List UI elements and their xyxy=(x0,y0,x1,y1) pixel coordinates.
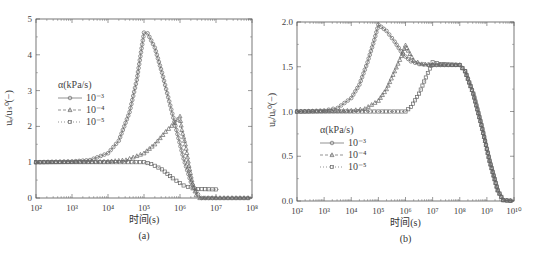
x-tick-label: 10³ xyxy=(66,203,78,213)
triangle-marker xyxy=(391,73,395,77)
square-marker xyxy=(424,76,427,79)
x-tick-label: 10⁵ xyxy=(138,203,150,213)
panel-caption: (a) xyxy=(138,230,149,242)
square-marker xyxy=(428,67,431,70)
x-tick-label: 10⁴ xyxy=(102,203,114,213)
x-tick-label: 10⁸ xyxy=(454,206,466,216)
x-tick-label: 10³ xyxy=(318,206,330,216)
square-marker xyxy=(415,95,418,98)
x-axis-label: 时间(s) xyxy=(390,216,421,229)
y-tick-label: 0.5 xyxy=(282,151,294,161)
x-tick-label: 10² xyxy=(291,206,303,216)
y-tick-label: 5 xyxy=(28,14,33,24)
x-tick-label: 10⁷ xyxy=(427,206,439,216)
y-tick-label: 1 xyxy=(28,157,33,167)
y-tick-label: 0 xyxy=(28,193,33,203)
x-tick-label: 10⁴ xyxy=(345,206,357,216)
figure: 10²10³10⁴10⁵10⁶10⁷10⁸012345α(kPa/s)10⁻³1… xyxy=(0,0,534,254)
series-line-1 xyxy=(36,116,252,198)
legend-entry: 10⁻³ xyxy=(348,137,366,148)
x-tick-label: 10¹⁰ xyxy=(506,206,522,216)
y-tick-label: 1.0 xyxy=(282,107,294,117)
x-tick-label: 10⁵ xyxy=(372,206,384,216)
y-axis-label: uₑ/uₛ⁰(−) xyxy=(3,90,15,126)
panel-a: 10²10³10⁴10⁵10⁶10⁷10⁸012345α(kPa/s)10⁻³1… xyxy=(3,14,258,242)
legend-entry: 10⁻³ xyxy=(86,92,104,103)
y-tick-label: 4 xyxy=(28,50,33,60)
y-tick-label: 3 xyxy=(28,86,33,96)
y-axis-label: uₑ/uₑ⁰(−) xyxy=(266,93,278,127)
legend: α(kPa/s)10⁻³10⁻⁴10⁻⁵ xyxy=(58,79,105,127)
square-marker xyxy=(182,184,185,187)
square-marker xyxy=(153,164,156,167)
plot-frame xyxy=(36,19,252,198)
square-marker xyxy=(411,102,414,105)
x-tick-label: 10⁸ xyxy=(246,203,258,213)
x-tick-label: 10⁷ xyxy=(210,203,222,213)
legend-title: α(kPa/s) xyxy=(58,79,92,91)
x-tick-label: 10⁹ xyxy=(481,206,493,216)
legend-title: α(kPa/s) xyxy=(320,124,354,136)
triangle-marker xyxy=(184,146,188,150)
legend: α(kPa/s)10⁻³10⁻⁴10⁻⁵ xyxy=(320,124,367,172)
y-tick-label: 0.0 xyxy=(282,196,294,206)
legend-entry: 10⁻⁴ xyxy=(86,104,105,115)
x-tick-label: 10⁶ xyxy=(399,206,411,216)
x-tick-label: 10⁶ xyxy=(174,203,186,213)
legend-entry: 10⁻⁵ xyxy=(348,161,367,172)
x-axis-label: 时间(s) xyxy=(129,213,160,226)
legend-entry: 10⁻⁵ xyxy=(86,116,105,127)
y-tick-label: 2 xyxy=(28,121,33,131)
triangle-marker xyxy=(385,87,389,91)
panel-caption: (b) xyxy=(400,233,412,245)
legend-entry: 10⁻⁴ xyxy=(348,149,367,160)
panel-b: 10²10³10⁴10⁵10⁶10⁷10⁸10⁹10¹⁰0.00.51.01.5… xyxy=(266,17,522,245)
series-line-0 xyxy=(36,33,252,198)
y-tick-label: 1.5 xyxy=(282,62,294,72)
square-marker xyxy=(417,92,420,95)
x-tick-label: 10² xyxy=(30,203,42,213)
y-tick-label: 2.0 xyxy=(282,17,294,27)
square-marker xyxy=(421,84,424,87)
